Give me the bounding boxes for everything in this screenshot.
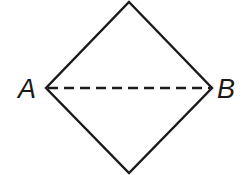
label-a: A: [16, 74, 36, 104]
label-b: B: [217, 74, 235, 104]
rhombus-diagram: A B: [0, 0, 248, 175]
